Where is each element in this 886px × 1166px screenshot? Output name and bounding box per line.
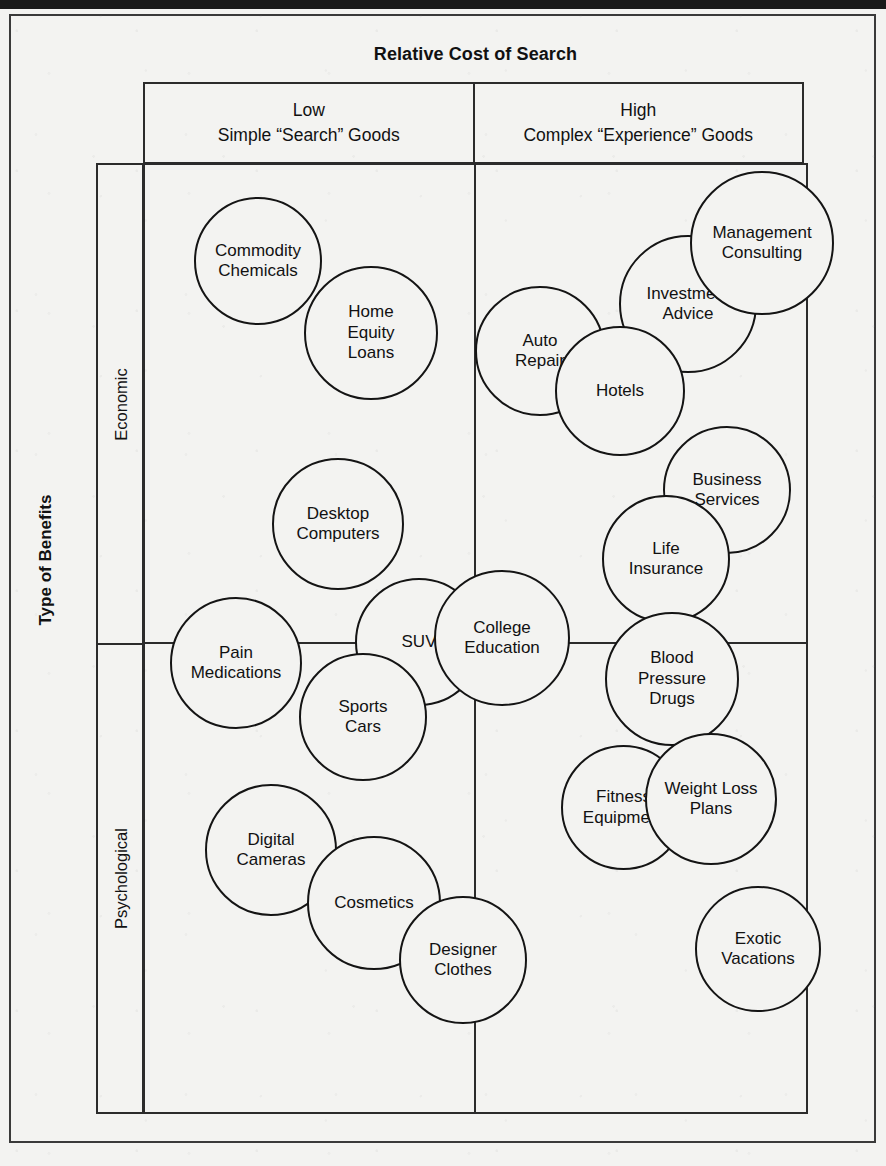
bubble-home-equity-loans: HomeEquityLoans: [304, 266, 438, 400]
bubble-hotels: Hotels: [555, 326, 685, 456]
bubble-label: LifeInsurance: [606, 539, 726, 580]
bubble-label: PainMedications: [174, 643, 298, 684]
bubble-layer: CommodityChemicalsHomeEquityLoansAutoRep…: [0, 0, 886, 1166]
bubble-pain-medications: PainMedications: [170, 597, 302, 729]
bubble-commodity-chemicals: CommodityChemicals: [194, 197, 322, 325]
bubble-label: ManagementConsulting: [694, 223, 830, 264]
bubble-label: DesignerClothes: [403, 940, 523, 981]
bubble-blood-pressure-drugs: BloodPressureDrugs: [605, 612, 739, 746]
bubble-label: ExoticVacations: [699, 929, 817, 970]
bubble-label: CollegeEducation: [438, 618, 566, 659]
bubble-life-insurance: LifeInsurance: [602, 495, 730, 623]
bubble-label: Weight LossPlans: [649, 779, 773, 820]
bubble-label: CommodityChemicals: [198, 241, 318, 282]
bubble-designer-clothes: DesignerClothes: [399, 896, 527, 1024]
bubble-label: SportsCars: [303, 697, 423, 738]
bubble-label: Cosmetics: [311, 893, 437, 913]
bubble-label: HomeEquityLoans: [308, 302, 434, 363]
diagram-page: Relative Cost of Search Low Simple “Sear…: [0, 0, 886, 1166]
bubble-management-consulting: ManagementConsulting: [690, 171, 834, 315]
bubble-weight-loss-plans: Weight LossPlans: [645, 733, 777, 865]
bubble-exotic-vacations: ExoticVacations: [695, 886, 821, 1012]
bubble-desktop-computers: DesktopComputers: [272, 458, 404, 590]
bubble-college-education: CollegeEducation: [434, 570, 570, 706]
bubble-label: DigitalCameras: [209, 830, 333, 871]
bubble-sports-cars: SportsCars: [299, 653, 427, 781]
bubble-label: DesktopComputers: [276, 504, 400, 545]
bubble-label: BloodPressureDrugs: [609, 648, 735, 709]
bubble-label: Hotels: [559, 381, 681, 401]
